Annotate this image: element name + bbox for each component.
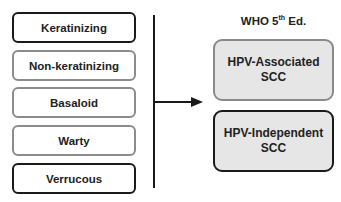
category-hpv-independent: HPV-IndependentSCC: [213, 110, 334, 172]
subtype-label: Keratinizing: [41, 22, 107, 34]
subtype-label: Warty: [58, 135, 90, 147]
category-hpv-associated: HPV-AssociatedSCC: [213, 39, 334, 101]
arrow-right-icon: [155, 97, 205, 109]
subtype-label: Verrucous: [46, 173, 102, 185]
subtype-label: Non-keratinizing: [29, 60, 119, 72]
subtype-verrucous: Verrucous: [12, 163, 136, 194]
subtype-basaloid: Basaloid: [12, 87, 136, 118]
subtype-keratinizing: Keratinizing: [12, 12, 136, 43]
category-line1: HPV-Independent: [224, 126, 323, 141]
subtype-non-keratinizing: Non-keratinizing: [12, 50, 136, 81]
category-line2: SCC: [227, 70, 319, 85]
category-line1: HPV-Associated: [227, 55, 319, 70]
category-line2: SCC: [224, 141, 323, 156]
classification-header: WHO 5th Ed.: [213, 14, 334, 27]
subtype-label: Basaloid: [50, 97, 98, 109]
subtype-warty: Warty: [12, 125, 136, 156]
